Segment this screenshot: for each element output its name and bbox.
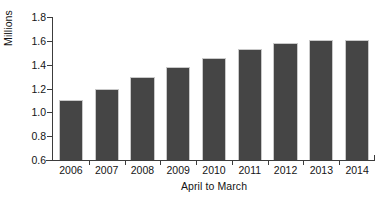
plot-area <box>53 17 375 160</box>
bar <box>273 43 297 160</box>
y-axis-tick-label: 0.6 <box>20 154 46 166</box>
y-axis-tick-label: 0.8 <box>20 130 46 142</box>
x-axis-tick-label: 2009 <box>160 163 196 177</box>
bar-group-2009 <box>166 17 190 160</box>
y-axis-title: Millions <box>2 0 16 66</box>
bar-chart: Millions 1.81.61.41.21.00.80.6 200620072… <box>0 0 392 205</box>
bar <box>345 40 369 160</box>
bar-group-2013 <box>309 17 333 160</box>
y-axis-tick-labels: 1.81.61.41.21.00.80.6 <box>16 0 46 205</box>
y-axis-tick-label: 1.4 <box>20 59 46 71</box>
y-axis-tick-label: 1.0 <box>20 106 46 118</box>
bar-group-2007 <box>95 17 119 160</box>
x-axis-tick-label: 2013 <box>303 163 339 177</box>
bar-group-2008 <box>130 17 154 160</box>
x-axis-tick-label: 2006 <box>53 163 89 177</box>
bar <box>202 58 226 160</box>
bar <box>166 67 190 160</box>
bar <box>309 40 333 160</box>
bar <box>130 77 154 160</box>
x-axis-title: April to March <box>53 180 375 192</box>
bar-group-2012 <box>273 17 297 160</box>
bar <box>95 89 119 161</box>
x-axis-tick-label: 2008 <box>125 163 161 177</box>
bar-group-2006 <box>59 17 83 160</box>
y-axis-tick-label: 1.2 <box>20 83 46 95</box>
x-axis-tick-label: 2010 <box>196 163 232 177</box>
x-axis-tick-label: 2011 <box>232 163 268 177</box>
x-axis-tick-label: 2014 <box>339 163 375 177</box>
y-axis-tick-label: 1.6 <box>20 35 46 47</box>
x-axis-tick-label: 2012 <box>268 163 304 177</box>
x-axis-line <box>46 160 375 161</box>
bar-group-2014 <box>345 17 369 160</box>
bar <box>59 100 83 160</box>
bar-group-2011 <box>238 17 262 160</box>
x-axis-tick-labels: 200620072008200920102011201220132014 <box>53 163 375 179</box>
bar-group-2010 <box>202 17 226 160</box>
x-axis-tick-label: 2007 <box>89 163 125 177</box>
y-axis-tick-label: 1.8 <box>20 11 46 23</box>
bar <box>238 49 262 160</box>
